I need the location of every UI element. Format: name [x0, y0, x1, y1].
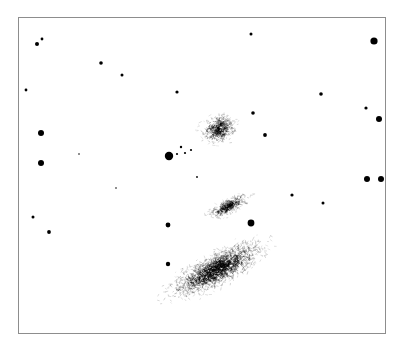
star-point — [248, 220, 255, 227]
star-point — [166, 262, 170, 266]
star-point — [25, 89, 28, 92]
star-point — [370, 37, 377, 44]
plate-frame — [18, 17, 386, 334]
star-point — [251, 111, 255, 115]
star-point — [175, 90, 178, 93]
star-point — [250, 33, 253, 36]
star-point — [121, 74, 124, 77]
star-point — [180, 146, 182, 148]
large-edge-on-spiral-galaxy — [149, 223, 284, 317]
star-point — [376, 116, 382, 122]
star-point — [176, 153, 178, 155]
star-point — [263, 133, 267, 137]
star-point — [322, 202, 325, 205]
star-point — [47, 230, 51, 234]
star-point — [41, 38, 44, 41]
star-point — [196, 176, 198, 178]
star-point — [184, 152, 186, 154]
upper-elliptical-galaxy — [192, 105, 246, 154]
star-point — [38, 160, 44, 166]
star-point — [319, 92, 323, 96]
star-point — [165, 152, 173, 160]
star-point — [38, 130, 44, 136]
star-point — [99, 61, 103, 65]
star-point — [290, 193, 293, 196]
star-point — [364, 106, 367, 109]
astronomical-plate — [0, 0, 405, 350]
star-point — [190, 149, 192, 151]
star-point — [378, 176, 384, 182]
point-sources-group — [25, 33, 384, 267]
caption-area — [0, 336, 405, 350]
star-point — [35, 42, 39, 46]
extended-objects-group — [149, 105, 284, 318]
star-point — [115, 187, 117, 189]
star-point — [32, 216, 35, 219]
sky-field — [19, 18, 385, 333]
star-point — [166, 223, 171, 228]
star-point — [78, 153, 80, 155]
star-point — [364, 176, 370, 182]
